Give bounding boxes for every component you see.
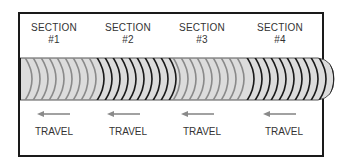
- travel-label-1: TRAVEL: [24, 126, 84, 137]
- arrow-left-icon: [37, 111, 70, 117]
- travel-label-4: TRAVEL: [254, 126, 314, 137]
- arrow-left-icon: [263, 111, 296, 117]
- travel-label-2: TRAVEL: [98, 126, 158, 137]
- arrow-left-icon: [181, 111, 214, 117]
- travel-label-3: TRAVEL: [172, 126, 232, 137]
- arrow-left-icon: [107, 111, 140, 117]
- travel-arrows: [0, 0, 348, 162]
